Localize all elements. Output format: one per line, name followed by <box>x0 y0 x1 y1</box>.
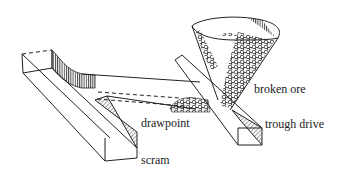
label-drawpoint: drawpoint <box>141 117 190 129</box>
drawpoint-wall <box>52 50 200 88</box>
label-scram: scram <box>141 154 170 166</box>
ore-cone <box>192 17 279 110</box>
label-trough-drive: trough drive <box>265 118 324 130</box>
scram-tunnel <box>22 50 137 161</box>
label-broken-ore: broken ore <box>254 83 306 95</box>
ore-pass-diagram: broken ore drawpoint trough drive scram <box>0 0 340 181</box>
